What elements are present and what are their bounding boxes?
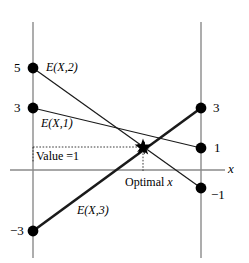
tick-label-right-3: 3	[213, 101, 220, 114]
optimal-x-label: Optimal x	[125, 176, 173, 188]
tick-label-right-neg1: −1	[211, 188, 225, 201]
curve-label-e-x-3: E(X,3)	[77, 204, 109, 216]
point-right-neg1	[196, 183, 207, 194]
point-right-1	[196, 143, 207, 154]
optimal-x-variable: x	[167, 175, 172, 189]
point-left-3	[28, 103, 39, 114]
curve-label-e-x-2: E(X,2)	[46, 61, 78, 73]
value-line-label: Value =1	[36, 150, 79, 162]
point-right-3	[196, 103, 207, 114]
curve-label-e-x-1: E(X,1)	[41, 117, 73, 129]
tick-label-left-neg3: −3	[10, 224, 24, 237]
optimal-x-word: Optimal	[125, 175, 164, 189]
tick-label-left-5: 5	[14, 61, 21, 74]
tick-label-right-1: 1	[214, 141, 221, 154]
point-left-neg3	[28, 226, 39, 237]
figure-container: 5 3 −3 3 1 −1 E(X,2) E(X,1) E(X,3) Value…	[0, 0, 249, 263]
plot-canvas	[0, 0, 249, 263]
point-left-5	[28, 63, 39, 74]
x-axis-label: x	[228, 162, 234, 175]
tick-label-left-3: 3	[14, 101, 21, 114]
